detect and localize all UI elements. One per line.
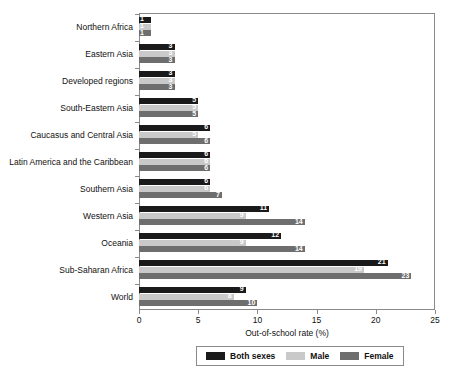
- x-axis-tick-label: 25: [430, 315, 439, 325]
- legend-item: Both sexes: [206, 351, 275, 361]
- x-axis-tick-label: 10: [253, 315, 262, 325]
- bar-male: 6: [139, 186, 210, 192]
- legend-swatch: [286, 352, 305, 360]
- legend-label: Male: [310, 351, 329, 361]
- bar-male: 8: [139, 294, 234, 300]
- category-label: Northern Africa: [76, 22, 133, 32]
- bar-value-label: 14: [295, 245, 303, 253]
- category-label: Sub-Saharan Africa: [59, 265, 133, 275]
- bar-value-label: 9: [240, 238, 244, 246]
- y-axis-tick: [135, 203, 139, 204]
- bar-female: 1: [139, 30, 151, 36]
- bar-chart: Northern Africa111Eastern Asia333Develop…: [0, 0, 455, 372]
- category-label: Southern Asia: [80, 184, 133, 194]
- bar-female: 3: [139, 84, 175, 90]
- y-axis-tick: [135, 176, 139, 177]
- bar-value-label: 1: [140, 29, 144, 37]
- bar-value-label: 3: [169, 56, 173, 64]
- category-label: Developed regions: [62, 76, 133, 86]
- bar-male: 9: [139, 240, 246, 246]
- bar-female: 5: [139, 111, 198, 117]
- legend-swatch: [206, 352, 225, 360]
- bar-male: 5: [139, 132, 198, 138]
- bar-female: 14: [139, 246, 305, 252]
- bar-both-sexes: 11: [139, 206, 269, 212]
- bar-both-sexes: 6: [139, 125, 210, 131]
- category-label: World: [111, 292, 133, 302]
- legend-item: Female: [340, 351, 393, 361]
- bar-male: 9: [139, 213, 246, 219]
- legend-item: Male: [286, 351, 329, 361]
- x-axis-tick: [317, 310, 318, 314]
- category-label: Western Asia: [83, 211, 133, 221]
- bar-value-label: 23: [402, 272, 410, 280]
- bar-male: 19: [139, 267, 364, 273]
- legend-swatch: [340, 352, 359, 360]
- bar-value-label: 9: [240, 211, 244, 219]
- x-axis-tick: [376, 310, 377, 314]
- x-axis-tick: [257, 310, 258, 314]
- chart-legend: Both sexesMaleFemale: [196, 346, 404, 366]
- y-axis-tick: [135, 149, 139, 150]
- x-axis-tick-label: 0: [137, 315, 142, 325]
- category-label: Latin America and the Caribbean: [9, 157, 133, 167]
- bar-value-label: 11: [260, 204, 267, 212]
- bar-value-label: 6: [204, 137, 208, 145]
- legend-label: Female: [364, 351, 393, 361]
- bar-value-label: 5: [192, 130, 196, 138]
- y-axis-tick: [135, 257, 139, 258]
- bar-female: 7: [139, 192, 222, 198]
- y-axis-tick: [135, 230, 139, 231]
- bar-value-label: 14: [295, 218, 303, 226]
- y-axis-tick: [135, 68, 139, 69]
- y-axis-tick: [135, 14, 139, 15]
- bar-both-sexes: 5: [139, 98, 198, 104]
- bar-female: 6: [139, 138, 210, 144]
- x-axis-tick: [435, 310, 436, 314]
- y-axis-tick: [135, 41, 139, 42]
- bar-value-label: 7: [216, 191, 220, 199]
- bar-value-label: 10: [248, 299, 256, 307]
- bar-male: 6: [139, 159, 210, 165]
- category-label: Caucasus and Central Asia: [30, 130, 133, 140]
- bar-both-sexes: 12: [139, 233, 281, 239]
- bar-value-label: 6: [204, 184, 208, 192]
- bar-value-label: 9: [240, 285, 244, 293]
- x-axis-title: Out-of-school rate (%): [139, 328, 435, 338]
- y-axis-tick: [135, 284, 139, 285]
- bar-male: 5: [139, 105, 198, 111]
- bar-value-label: 19: [354, 265, 362, 273]
- category-label: Oceania: [101, 238, 133, 248]
- category-label: South-Eastern Asia: [60, 103, 133, 113]
- bar-value-label: 6: [204, 164, 208, 172]
- y-axis-tick: [135, 122, 139, 123]
- x-axis-tick-label: 20: [371, 315, 380, 325]
- bar-value-label: 21: [378, 258, 386, 266]
- bar-both-sexes: 6: [139, 152, 210, 158]
- bar-female: 23: [139, 273, 411, 279]
- category-label: Eastern Asia: [85, 49, 133, 59]
- x-axis-tick: [198, 310, 199, 314]
- bar-female: 10: [139, 300, 257, 306]
- bar-female: 6: [139, 165, 210, 171]
- x-axis-tick: [139, 310, 140, 314]
- bar-value-label: 5: [192, 110, 196, 118]
- bar-both-sexes: 6: [139, 179, 210, 185]
- bar-female: 3: [139, 57, 175, 63]
- bar-value-label: 12: [271, 231, 279, 239]
- bar-both-sexes: 21: [139, 260, 388, 266]
- bar-value-label: 8: [228, 292, 232, 300]
- x-axis-tick-label: 15: [312, 315, 321, 325]
- bar-female: 14: [139, 219, 305, 225]
- bar-value-label: 6: [204, 123, 208, 131]
- bar-value-label: 3: [169, 83, 173, 91]
- x-axis-tick-label: 5: [196, 315, 201, 325]
- y-axis-tick: [135, 95, 139, 96]
- legend-label: Both sexes: [230, 351, 275, 361]
